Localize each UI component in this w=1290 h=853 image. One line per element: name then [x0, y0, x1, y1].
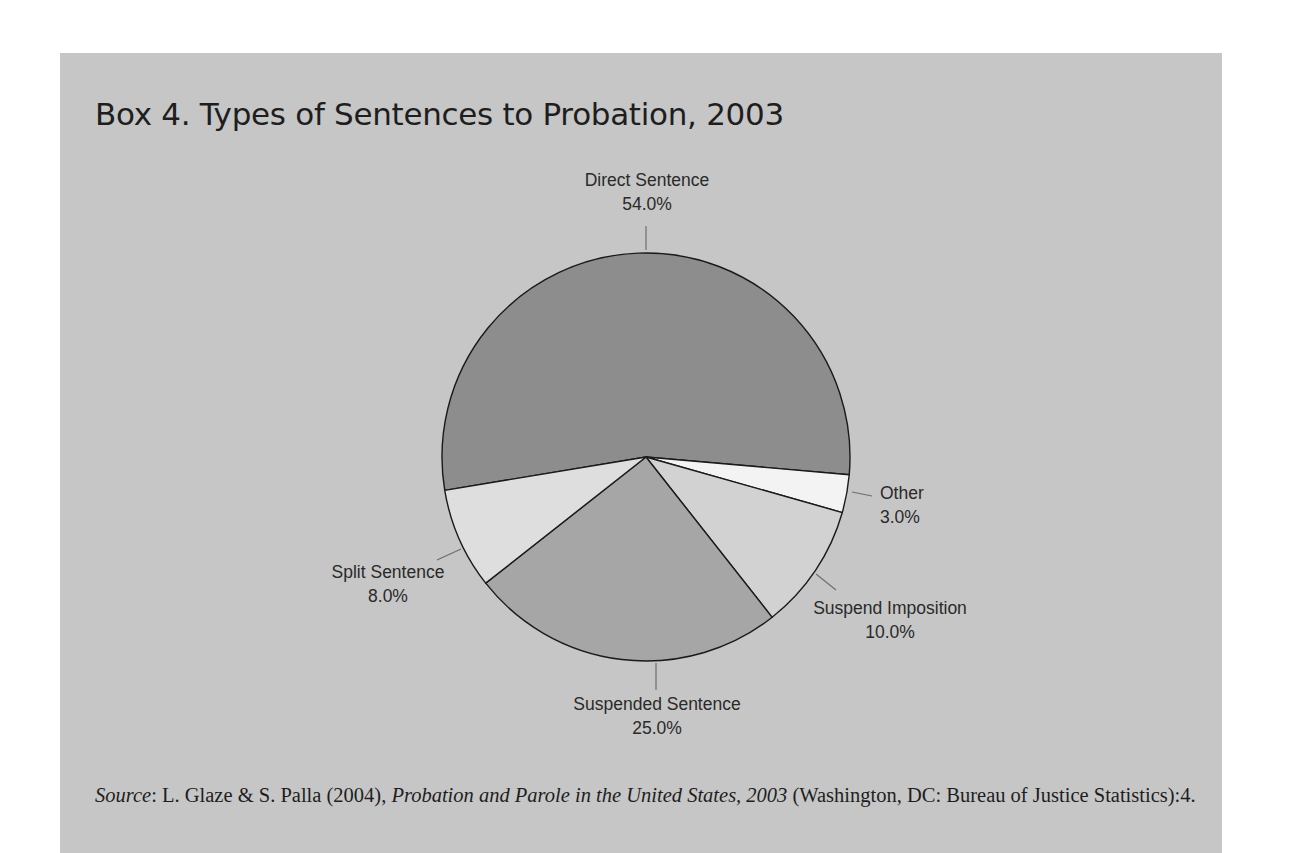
leader-line: [816, 574, 836, 590]
label-direct-value: 54.0%: [622, 194, 672, 214]
label-suspend-imposition-name: Suspend Imposition: [813, 598, 967, 618]
slice-direct-sentence: [442, 253, 850, 490]
source-label: Source: [95, 784, 151, 806]
source-authors: : L. Glaze & S. Palla (2004),: [151, 784, 391, 806]
label-other-name: Other: [880, 483, 924, 503]
pie-slices: [442, 253, 850, 661]
source-note: Source: L. Glaze & S. Palla (2004), Prob…: [95, 781, 1215, 809]
source-rest: (Washington, DC: Bureau of Justice Stati…: [787, 784, 1195, 806]
label-suspended-name: Suspended Sentence: [573, 694, 740, 714]
leader-line: [437, 549, 461, 560]
label-suspend-imposition-value: 10.0%: [865, 622, 915, 642]
label-other-value: 3.0%: [880, 507, 920, 527]
source-work: Probation and Parole in the United State…: [391, 784, 787, 806]
label-suspended-value: 25.0%: [632, 718, 682, 738]
label-split-value: 8.0%: [368, 586, 408, 606]
label-split-name: Split Sentence: [332, 562, 445, 582]
leader-line: [852, 492, 872, 496]
label-direct-name: Direct Sentence: [585, 170, 710, 190]
